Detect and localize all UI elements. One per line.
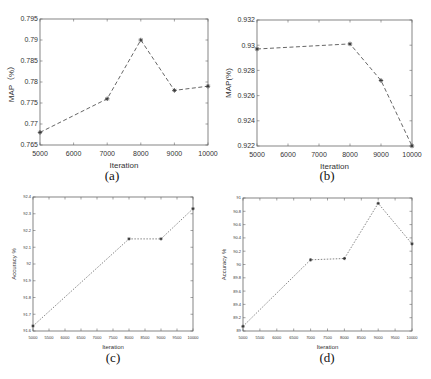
data-point-marker (172, 88, 176, 92)
x-tick-label: 10000 (402, 151, 422, 158)
x-tick-label: 9000 (167, 150, 183, 157)
plot-area (257, 20, 412, 146)
plot-area (243, 198, 412, 331)
y-tick-label: 0.77 (24, 120, 38, 127)
x-tick-label: 6500 (77, 335, 87, 340)
y-tick-label: 91 (237, 195, 242, 200)
x-tick-label: 7500 (109, 335, 119, 340)
x-tick-label: 5500 (255, 335, 265, 340)
data-point-marker (343, 257, 346, 260)
data-point-marker (377, 202, 380, 205)
y-tick-label: 91.6 (23, 328, 32, 333)
x-tick-label: 6000 (280, 151, 296, 158)
y-tick-label: 0.93 (241, 42, 255, 49)
x-tick-label: 6000 (66, 150, 82, 157)
x-tick-label: 9000 (157, 335, 167, 340)
x-tick-label: 8500 (141, 335, 151, 340)
caption-d: (d) (312, 350, 342, 366)
x-tick-label: 7500 (323, 335, 333, 340)
x-tick-label: 6000 (61, 335, 71, 340)
chart-panel-c: 5000550060006500700075008000850090009500… (0, 190, 215, 379)
y-tick-label: 91.7 (23, 312, 32, 317)
y-tick-label: 90.8 (233, 209, 242, 214)
y-tick-label: 92 (27, 261, 32, 266)
x-tick-label: 8500 (357, 335, 367, 340)
y-tick-label: 89.8 (233, 275, 242, 280)
chart-panel-a: 50006000700080009000100000.7650.770.7750… (0, 0, 215, 190)
x-tick-label: 5000 (29, 335, 39, 340)
x-tick-label: 5000 (32, 150, 48, 157)
y-tick-label: 92.4 (23, 194, 32, 199)
data-point-marker (206, 84, 210, 88)
x-tick-label: 9500 (391, 335, 401, 340)
y-tick-label: 90.4 (233, 235, 242, 240)
data-point-marker (309, 258, 312, 261)
y-tick-label: 89.4 (233, 302, 242, 307)
x-tick-label: 7000 (93, 335, 103, 340)
y-tick-label: 92.1 (23, 245, 32, 250)
y-tick-label: 0.932 (237, 16, 255, 23)
y-tick-label: 0.926 (237, 92, 255, 99)
data-point-marker (38, 130, 42, 134)
x-tick-label: 9000 (373, 151, 389, 158)
x-tick-label: 8000 (125, 335, 135, 340)
y-tick-label: 89.6 (233, 289, 242, 294)
x-tick-label: 8000 (340, 335, 350, 340)
x-tick-label: 7000 (99, 150, 115, 157)
y-axis-label: Accuracy % (11, 248, 17, 280)
chart-panel-b: 50006000700080009000100000.9220.9240.926… (215, 0, 431, 190)
x-tick-label: 9500 (173, 335, 183, 340)
plot-area (33, 197, 193, 331)
x-tick-label: 8000 (342, 151, 358, 158)
x-tick-label: 10000 (406, 335, 418, 340)
y-tick-label: 0.775 (20, 99, 38, 106)
chart-panel-d: 5000550060006500700075008000850090009500… (215, 190, 431, 379)
chart-svg-a: 50006000700080009000100000.7650.770.7750… (0, 0, 215, 190)
y-tick-label: 0.922 (237, 142, 255, 149)
caption-a: (a) (97, 168, 127, 184)
data-point-marker (105, 97, 109, 101)
y-tick-label: 92.3 (23, 211, 32, 216)
x-tick-label: 6000 (272, 335, 282, 340)
chart-svg-b: 50006000700080009000100000.9220.9240.926… (215, 0, 431, 190)
y-tick-label: 0.795 (20, 15, 38, 22)
y-axis-label: Accuracy % (221, 248, 227, 280)
x-tick-label: 5000 (239, 335, 249, 340)
y-tick-label: 90.6 (233, 222, 242, 227)
y-tick-label: 90 (237, 262, 242, 267)
data-point-marker (139, 38, 143, 42)
x-tick-label: 7000 (311, 151, 327, 158)
y-tick-label: 90.2 (233, 249, 242, 254)
y-tick-label: 91.9 (23, 278, 32, 283)
x-tick-label: 9000 (374, 335, 384, 340)
plot-area (40, 19, 208, 145)
y-tick-label: 0.785 (20, 57, 38, 64)
y-tick-label: 0.78 (24, 78, 38, 85)
y-tick-label: 0.928 (237, 67, 255, 74)
y-tick-label: 91.8 (23, 295, 32, 300)
y-axis-label: MAP（%） (7, 62, 16, 102)
y-tick-label: 92.2 (23, 228, 32, 233)
y-tick-label: 0.924 (237, 117, 255, 124)
x-tick-label: 8000 (133, 150, 149, 157)
caption-c: (c) (98, 350, 128, 366)
y-tick-label: 0.765 (20, 141, 38, 148)
data-point-marker (31, 324, 34, 327)
x-tick-label: 7000 (306, 335, 316, 340)
y-tick-label: 0.79 (24, 36, 38, 43)
caption-b: (b) (312, 168, 342, 184)
x-tick-label: 5500 (45, 335, 55, 340)
x-tick-label: 10000 (187, 335, 199, 340)
y-tick-label: 89 (237, 328, 242, 333)
x-tick-label: 5000 (249, 151, 265, 158)
y-axis-label: MAP(%) (224, 68, 233, 98)
y-tick-label: 89.2 (233, 315, 242, 320)
x-tick-label: 6500 (289, 335, 299, 340)
